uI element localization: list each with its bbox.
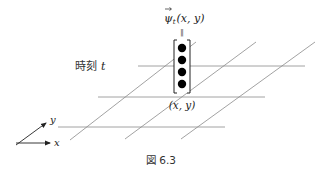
figure-caption: 図 6.3 bbox=[146, 154, 176, 166]
axis-y-label: y bbox=[49, 114, 56, 125]
axes-indicator bbox=[16, 123, 50, 145]
equals-rotated: ‖ bbox=[180, 28, 184, 37]
time-label: 時刻t bbox=[75, 59, 106, 73]
vector-label: ψt(x, y) bbox=[164, 8, 204, 27]
point-label: (x, y) bbox=[169, 99, 196, 111]
component-dot-3 bbox=[178, 68, 186, 76]
y-axis-arrow bbox=[16, 123, 46, 145]
psi-symbol: ψ bbox=[164, 12, 173, 25]
grid-line-d3 bbox=[181, 42, 315, 139]
grid-diagonal-lines bbox=[70, 42, 315, 140]
svg-text:ψt(x, y): ψt(x, y) bbox=[164, 12, 204, 26]
axis-x-label: x bbox=[54, 137, 60, 148]
psi-subscript: t bbox=[173, 18, 176, 26]
lattice-diagram: ψt(x, y) ‖ 時刻t (x, y) y x 図 6.3 bbox=[0, 0, 323, 171]
component-dot-4 bbox=[178, 80, 186, 88]
psi-args: (x, y) bbox=[176, 12, 204, 25]
component-dot-2 bbox=[178, 56, 186, 64]
component-dot-1 bbox=[178, 44, 186, 52]
